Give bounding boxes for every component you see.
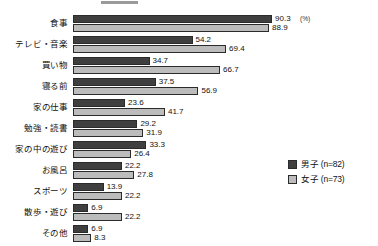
bar-female — [73, 129, 143, 137]
bar-female — [73, 87, 198, 95]
bar-value-label: 31.9 — [146, 129, 162, 137]
bar-value-label: 33.3 — [149, 141, 165, 149]
chart-row: 家の仕事23.641.7 — [0, 97, 378, 118]
category-label: 食事 — [0, 17, 68, 30]
bar-female — [73, 171, 134, 179]
bar-female — [73, 66, 220, 74]
chart-row: 食事90.388.9 — [0, 13, 378, 34]
chart-row: 散歩・遊び6.922.2 — [0, 202, 378, 223]
bar-male — [73, 225, 88, 233]
bar-male — [73, 120, 137, 128]
bar-male — [73, 183, 104, 191]
bar-value-label: 90.3 — [275, 15, 291, 23]
bar-value-label: 8.3 — [94, 234, 105, 242]
legend-label: 女子 (n=73) — [301, 174, 344, 185]
bar-value-label: 22.2 — [125, 162, 141, 170]
category-label: お風呂 — [0, 164, 68, 177]
bar-value-label: 88.9 — [272, 24, 288, 32]
category-label: テレビ・音楽 — [0, 38, 68, 51]
legend-item[interactable]: 男子 (n=82) — [288, 158, 376, 173]
bar-male — [73, 204, 88, 212]
bar-male — [73, 78, 156, 86]
bar-female — [73, 234, 91, 242]
category-label: 寝る前 — [0, 80, 68, 93]
bar-value-label: 54.2 — [196, 36, 212, 44]
bar-value-label: 13.9 — [107, 183, 123, 191]
bar-male — [73, 57, 150, 65]
bar-female — [73, 108, 165, 116]
bar-male — [73, 36, 193, 44]
bar-value-label: 29.2 — [140, 120, 156, 128]
chart-row: その他6.98.3 — [0, 223, 378, 244]
bar-value-label: 41.7 — [168, 108, 184, 116]
bar-female — [73, 150, 131, 158]
bar-value-label: 22.2 — [125, 192, 141, 200]
category-label: 散歩・遊び — [0, 206, 68, 219]
unit-label: (%) — [300, 15, 310, 22]
bar-value-label: 56.9 — [201, 87, 217, 95]
bar-male — [73, 15, 272, 23]
bar-value-label: 6.9 — [91, 204, 102, 212]
bar-value-label: 66.7 — [223, 66, 239, 74]
bar-value-label: 27.8 — [137, 171, 153, 179]
chart-row: 買い物34.766.7 — [0, 55, 378, 76]
bar-value-label: 6.9 — [91, 225, 102, 233]
chart-legend: 男子 (n=82)女子 (n=73) — [288, 158, 376, 188]
legend-swatch-icon — [288, 160, 297, 169]
chart-row: テレビ・音楽54.269.4 — [0, 34, 378, 55]
bar-female — [73, 213, 122, 221]
category-label: 家の仕事 — [0, 101, 68, 114]
bar-value-label: 26.4 — [134, 150, 150, 158]
bar-value-label: 23.6 — [128, 99, 144, 107]
bar-value-label: 69.4 — [229, 45, 245, 53]
bar-male — [73, 162, 122, 170]
category-label: スポーツ — [0, 185, 68, 198]
chart-row: 勉強・読書29.231.9 — [0, 118, 378, 139]
legend-item[interactable]: 女子 (n=73) — [288, 173, 376, 188]
bar-female — [73, 192, 122, 200]
category-label: 勉強・読書 — [0, 122, 68, 135]
bar-female — [73, 24, 269, 32]
bar-male — [73, 141, 146, 149]
grouped-bar-chart: 食事90.388.9テレビ・音楽54.269.4買い物34.766.7寝る前37… — [0, 0, 378, 246]
bar-value-label: 34.7 — [153, 57, 169, 65]
legend-swatch-icon — [288, 175, 297, 184]
category-label: 買い物 — [0, 59, 68, 72]
bar-value-label: 37.5 — [159, 78, 175, 86]
category-label: 家の中の遊び — [0, 143, 68, 156]
chart-row: 寝る前37.556.9 — [0, 76, 378, 97]
category-label: その他 — [0, 227, 68, 240]
chart-row: 家の中の遊び33.326.4 — [0, 139, 378, 160]
bar-value-label: 22.2 — [125, 213, 141, 221]
bar-female — [73, 45, 226, 53]
bar-male — [73, 99, 125, 107]
legend-label: 男子 (n=82) — [301, 159, 344, 170]
